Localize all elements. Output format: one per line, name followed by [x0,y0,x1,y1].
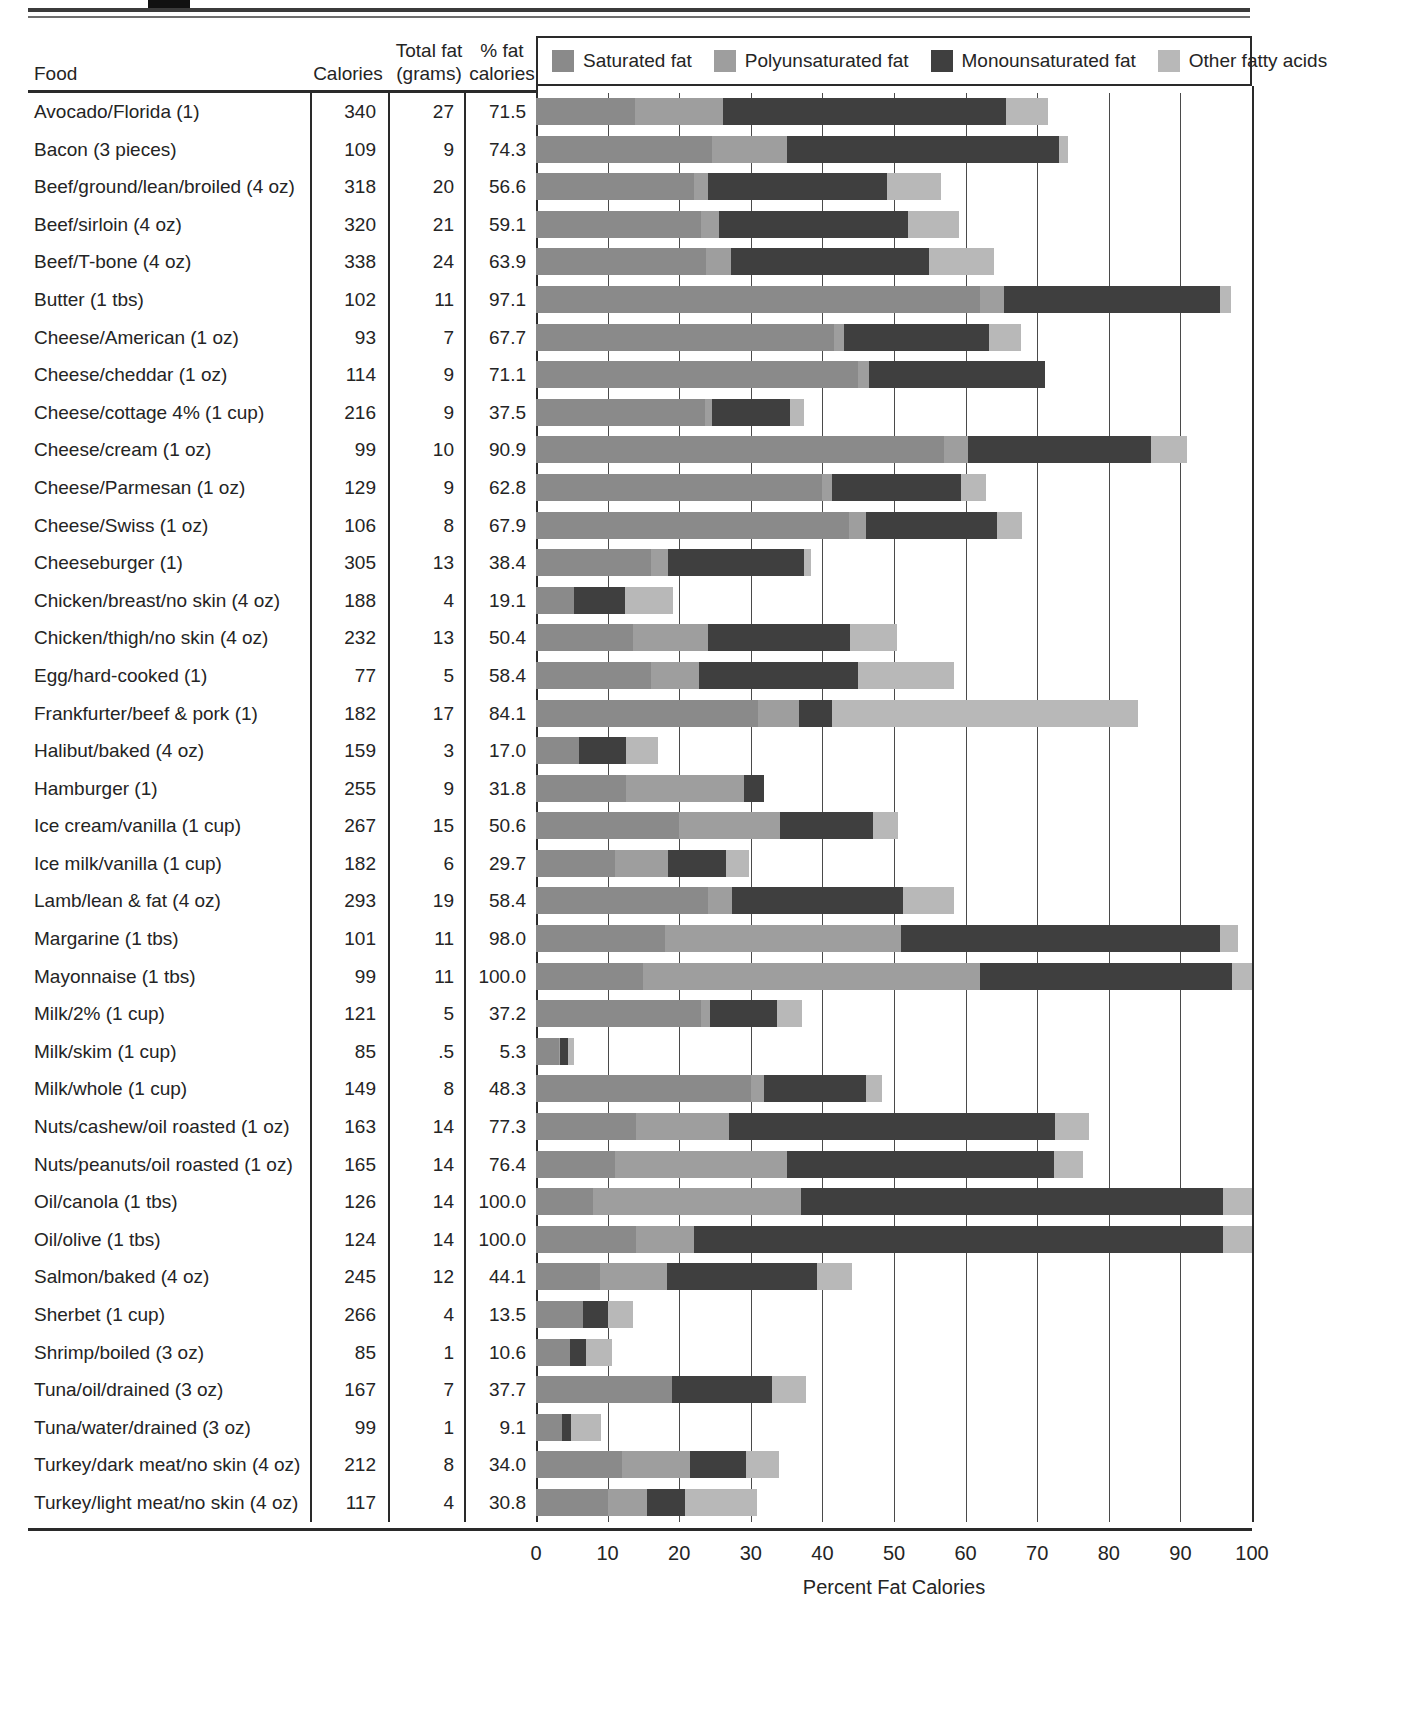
legend-swatch-icon [1158,50,1180,72]
stacked-bar [536,512,1022,539]
bar-segment-monounsaturated-fat [764,1075,866,1102]
cell-food-name: Milk/skim (1 cup) [34,1033,302,1071]
bar-segment-monounsaturated-fat [672,1376,772,1403]
stacked-bar [536,963,1252,990]
cell-pct-fat-calories: 100.0 [466,1221,526,1259]
cell-calories: 340 [306,93,376,131]
stacked-bar [536,1489,757,1516]
bar-segment-saturated-fat [536,173,694,200]
bar-segment-monounsaturated-fat [668,850,725,877]
bar-row [536,807,1252,845]
bar-row [536,1296,1252,1334]
bar-segment-saturated-fat [536,1263,600,1290]
cell-calories: 320 [306,206,376,244]
bar-segment-other-fatty-acids [1006,98,1048,125]
stacked-bar [536,286,1231,313]
bar-segment-monounsaturated-fat [968,436,1151,463]
cell-food-name: Egg/hard-cooked (1) [34,657,302,695]
bar-segment-saturated-fat [536,887,708,914]
cell-calories: 124 [306,1221,376,1259]
bar-segment-polyunsaturated-fat [636,1113,729,1140]
bar-segment-saturated-fat [536,549,651,576]
bar-segment-other-fatty-acids [625,587,673,614]
bar-segment-saturated-fat [536,700,758,727]
bar-segment-polyunsaturated-fat [633,624,708,651]
column-header-calories: Calories [306,62,390,85]
cell-calories: 114 [306,356,376,394]
bar-segment-polyunsaturated-fat [708,887,732,914]
cell-total-fat: 20 [392,168,454,206]
cell-calories: 267 [306,807,376,845]
bar-segment-monounsaturated-fat [667,1263,817,1290]
bar-row [536,1484,1252,1522]
bar-segment-other-fatty-acids [685,1489,757,1516]
bar-row [536,958,1252,996]
cell-total-fat: 9 [392,770,454,808]
bar-segment-monounsaturated-fat [866,512,997,539]
cell-calories: 167 [306,1371,376,1409]
bar-row [536,770,1252,808]
stacked-bar [536,1451,779,1478]
cell-pct-fat-calories: 13.5 [466,1296,526,1334]
cell-calories: 165 [306,1146,376,1184]
cell-total-fat: 8 [392,1070,454,1108]
legend-swatch-icon [931,50,953,72]
cell-total-fat: 14 [392,1146,454,1184]
bar-segment-polyunsaturated-fat [615,850,669,877]
cell-calories: 245 [306,1258,376,1296]
bar-segment-other-fatty-acids [1220,925,1238,952]
bar-segment-polyunsaturated-fat [608,1489,647,1516]
bar-row [536,657,1252,695]
cell-pct-fat-calories: 71.1 [466,356,526,394]
cell-pct-fat-calories: 67.9 [466,507,526,545]
bar-segment-polyunsaturated-fat [600,1263,667,1290]
cell-calories: 255 [306,770,376,808]
cell-calories: 109 [306,131,376,169]
legend-label: Polyunsaturated fat [745,50,909,72]
cell-total-fat: 9 [392,394,454,432]
cell-calories: 216 [306,394,376,432]
cell-total-fat: 14 [392,1221,454,1259]
x-axis-ticks: 0102030405060708090100 [536,1542,1252,1568]
bar-segment-other-fatty-acids [1223,1226,1252,1253]
bar-segment-monounsaturated-fat [562,1414,571,1441]
cell-food-name: Beef/T-bone (4 oz) [34,243,302,281]
bar-segment-polyunsaturated-fat [651,549,668,576]
cell-pct-fat-calories: 90.9 [466,431,526,469]
bar-segment-monounsaturated-fat [647,1489,685,1516]
bar-row [536,206,1252,244]
bar-segment-polyunsaturated-fat [694,173,708,200]
cell-calories: 101 [306,920,376,958]
bar-segment-other-fatty-acids [571,1414,601,1441]
cell-calories: 318 [306,168,376,206]
bar-segment-saturated-fat [536,1226,636,1253]
top-rule-thin [28,16,1250,18]
cell-calories: 117 [306,1484,376,1522]
stacked-bar [536,775,764,802]
bar-segment-polyunsaturated-fat [701,1000,710,1027]
bar-segment-other-fatty-acids [746,1451,780,1478]
cell-pct-fat-calories: 37.5 [466,394,526,432]
bar-segment-other-fatty-acids [929,248,993,275]
cell-calories: 305 [306,544,376,582]
bar-segment-other-fatty-acids [850,624,897,651]
bar-segment-other-fatty-acids [790,399,804,426]
bar-segment-saturated-fat [536,1489,608,1516]
bar-segment-polyunsaturated-fat [706,248,731,275]
cell-calories: 232 [306,619,376,657]
bar-segment-saturated-fat [536,812,679,839]
legend-label: Monounsaturated fat [962,50,1136,72]
bar-segment-polyunsaturated-fat [705,399,712,426]
cell-calories: 93 [306,319,376,357]
top-rule-thick [28,8,1250,12]
cell-pct-fat-calories: 38.4 [466,544,526,582]
cell-food-name: Beef/sirloin (4 oz) [34,206,302,244]
bar-segment-monounsaturated-fat [901,925,1220,952]
cell-pct-fat-calories: 97.1 [466,281,526,319]
legend-swatch-icon [714,50,736,72]
cell-calories: 182 [306,845,376,883]
bar-segment-saturated-fat [536,1414,562,1441]
bar-row [536,1371,1252,1409]
cell-pct-fat-calories: 30.8 [466,1484,526,1522]
bar-segment-other-fatty-acids [1232,963,1252,990]
